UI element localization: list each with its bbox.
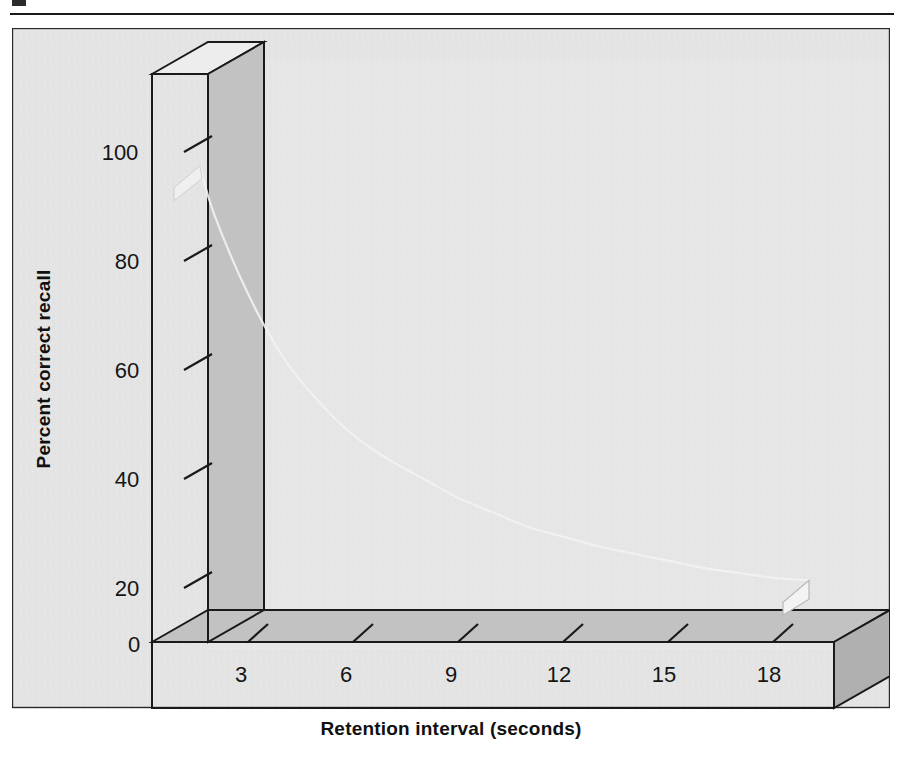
x-tick-label-15: 15 bbox=[652, 662, 676, 687]
x-tick-label-18: 18 bbox=[757, 662, 781, 687]
y-axis-front-face bbox=[152, 74, 208, 642]
y-axis-title: Percent correct recall bbox=[33, 219, 55, 519]
figure-page: 0% #d3d3d3 55% #c6c6c6 100% #bdbdbd 0% #… bbox=[0, 0, 903, 779]
x-tick-label-6: 6 bbox=[340, 662, 352, 687]
chart-figure: 0% #d3d3d3 55% #c6c6c6 100% #bdbdbd 0% #… bbox=[12, 28, 890, 763]
x-tick-label-12: 12 bbox=[547, 662, 571, 687]
x-axis-title: Retention interval (seconds) bbox=[12, 718, 890, 740]
y-tick-label-100: 100 bbox=[102, 140, 139, 165]
y-tick-label-20: 20 bbox=[115, 576, 139, 601]
y-tick-label-80: 80 bbox=[115, 249, 139, 274]
x-tick-label-3: 3 bbox=[235, 662, 247, 687]
x-axis-front-face bbox=[152, 642, 834, 708]
header-rule bbox=[10, 13, 894, 15]
x-tick-label-9: 9 bbox=[445, 662, 457, 687]
page-crop-mark bbox=[12, 0, 26, 6]
y-tick-label-40: 40 bbox=[115, 467, 139, 492]
y-tick-label-0: 0 bbox=[128, 632, 140, 657]
y-tick-label-60: 60 bbox=[115, 358, 139, 383]
forgetting-curve-chart: 0% #d3d3d3 55% #c6c6c6 100% #bdbdbd 0% #… bbox=[12, 28, 890, 763]
